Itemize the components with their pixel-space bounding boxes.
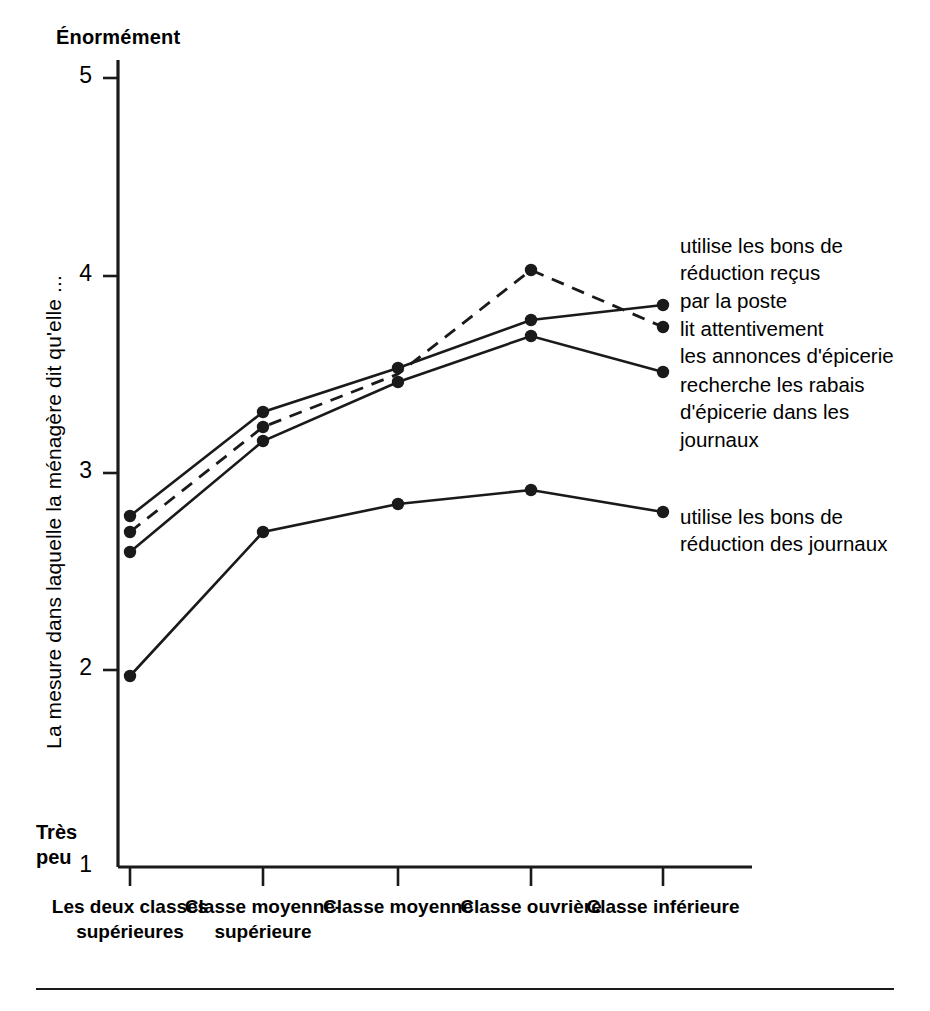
- chart-figure: Énormément Très peu La mesure dans laque…: [0, 0, 930, 1011]
- y-tick-label-4: 4: [52, 260, 92, 287]
- y-tick-label-5: 5: [52, 62, 92, 89]
- y-axis-ticks: [103, 78, 118, 670]
- x-axis-ticks: [130, 867, 663, 886]
- x-tick-label-classe-inferieure: Classe inférieure: [573, 894, 753, 919]
- y-axis-title: La mesure dans laquelle la ménagère dit …: [42, 252, 66, 772]
- y-tick-label-2: 2: [52, 654, 92, 681]
- legend-entry-bons-reduction-poste: utilise les bons de réduction reçus par …: [680, 232, 843, 314]
- legend-entry-bons-reduction-journaux: utilise les bons de réduction des journa…: [680, 503, 887, 558]
- y-tick-label-1: 1: [52, 851, 92, 878]
- legend-entry-annonces-epicerie: lit attentivement les annonces d'épiceri…: [680, 315, 894, 370]
- axis-lines: [118, 60, 752, 867]
- series-line-3: [124, 484, 669, 682]
- footer-divider: [36, 988, 894, 990]
- legend-entry-rabais-epicerie-journaux: recherche les rabais d'épicerie dans les…: [680, 371, 865, 453]
- y-tick-label-3: 3: [52, 457, 92, 484]
- series-line-1: [124, 264, 669, 538]
- y-axis-top-anchor-label: Énormément: [56, 26, 180, 50]
